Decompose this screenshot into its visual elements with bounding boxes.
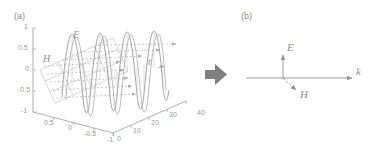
panel-b-vectors — [246, 55, 352, 90]
panel-a-label-t: t — [148, 56, 151, 67]
panel-b-label-e: E — [287, 41, 294, 53]
y-tick-neg0_5: -0.5 — [84, 130, 96, 137]
y-tick-0: 0 — [68, 124, 72, 131]
z-tick-0: 0 — [25, 65, 29, 72]
x-tick-0: 0 — [117, 135, 121, 142]
panel-a-wave-e — [62, 31, 169, 113]
x-tick-30: 30 — [169, 111, 177, 118]
figure-canvas — [0, 0, 374, 156]
x-tick-10: 10 — [133, 127, 141, 134]
z-tick-0_5: 0.5 — [18, 44, 28, 51]
x-tick-20: 20 — [151, 119, 159, 126]
panel-a-label-h: H — [43, 53, 50, 64]
vector-h — [283, 78, 296, 90]
panel-a-grid-plane — [40, 38, 128, 103]
figure-root: (a) (b) — [0, 0, 374, 156]
panel-label-b: (b) — [241, 11, 252, 21]
panel-a-h-quiver — [44, 44, 176, 98]
y-tick-neg1: -1 — [107, 136, 113, 143]
panel-a-x-ticks — [113, 101, 186, 136]
panel-a-wave-e-secondary — [66, 34, 166, 116]
panel-a-z-ticks — [33, 28, 36, 112]
block-arrow-right-icon — [205, 64, 227, 85]
panel-a-t-arrow — [158, 66, 164, 68]
z-tick-1: 1 — [24, 23, 28, 30]
y-tick-0_5: 0.5 — [44, 119, 54, 126]
x-tick-40: 40 — [197, 109, 205, 116]
panel-label-a: (a) — [14, 11, 25, 21]
panel-b-label-h: H — [300, 88, 308, 100]
panel-a-label-e: E — [73, 29, 79, 40]
z-tick-neg0_5: -0.5 — [18, 86, 30, 93]
panel-b-label-k: k — [356, 65, 361, 77]
z-tick-neg1: -1 — [21, 107, 27, 114]
panel-a-axes — [33, 28, 186, 133]
